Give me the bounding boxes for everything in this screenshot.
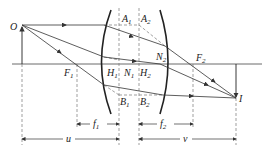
label-n1: N1 xyxy=(123,67,134,80)
label-image: I xyxy=(238,93,243,104)
label-object: O xyxy=(10,21,17,32)
dimension-lines xyxy=(22,124,236,139)
label-dim-f1: f1 xyxy=(93,118,99,131)
optics-diagram: O I F1 F2 H1 N1 H2 N2 A1 A2 B1 B2 f1 f2 … xyxy=(0,0,263,160)
label-h1: H1 xyxy=(106,67,118,80)
label-f2: F2 xyxy=(195,52,206,65)
label-h2: H2 xyxy=(139,67,151,80)
label-dim-u: u xyxy=(66,133,71,144)
label-n2: N2 xyxy=(155,51,167,64)
label-f1: F1 xyxy=(63,67,74,80)
label-b2: B2 xyxy=(140,96,150,109)
label-a2: A2 xyxy=(140,13,151,26)
label-dim-v: v xyxy=(183,133,188,144)
label-b1: B1 xyxy=(120,96,130,109)
label-a1: A1 xyxy=(121,13,132,26)
label-dim-f2: f2 xyxy=(160,118,167,131)
